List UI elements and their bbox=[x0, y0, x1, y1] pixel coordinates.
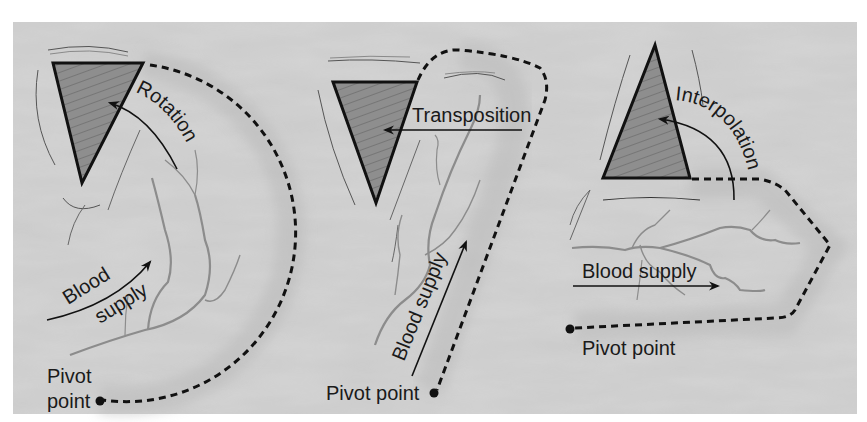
pivot-label-line2: point bbox=[47, 390, 91, 412]
pivot-label: Pivot point bbox=[582, 337, 676, 359]
pivot-label-line1: Pivot bbox=[47, 365, 92, 387]
pivot-point-dot bbox=[566, 325, 575, 334]
transposition-label: Transposition bbox=[412, 104, 531, 126]
blood-supply-label: Blood supply bbox=[582, 260, 697, 282]
pivot-point-dot bbox=[96, 397, 105, 406]
local-flap-types-diagram: Rotation Blood supply Pivot point bbox=[0, 0, 867, 422]
pivot-point-dot bbox=[430, 389, 439, 398]
pivot-label: Pivot point bbox=[326, 382, 420, 404]
